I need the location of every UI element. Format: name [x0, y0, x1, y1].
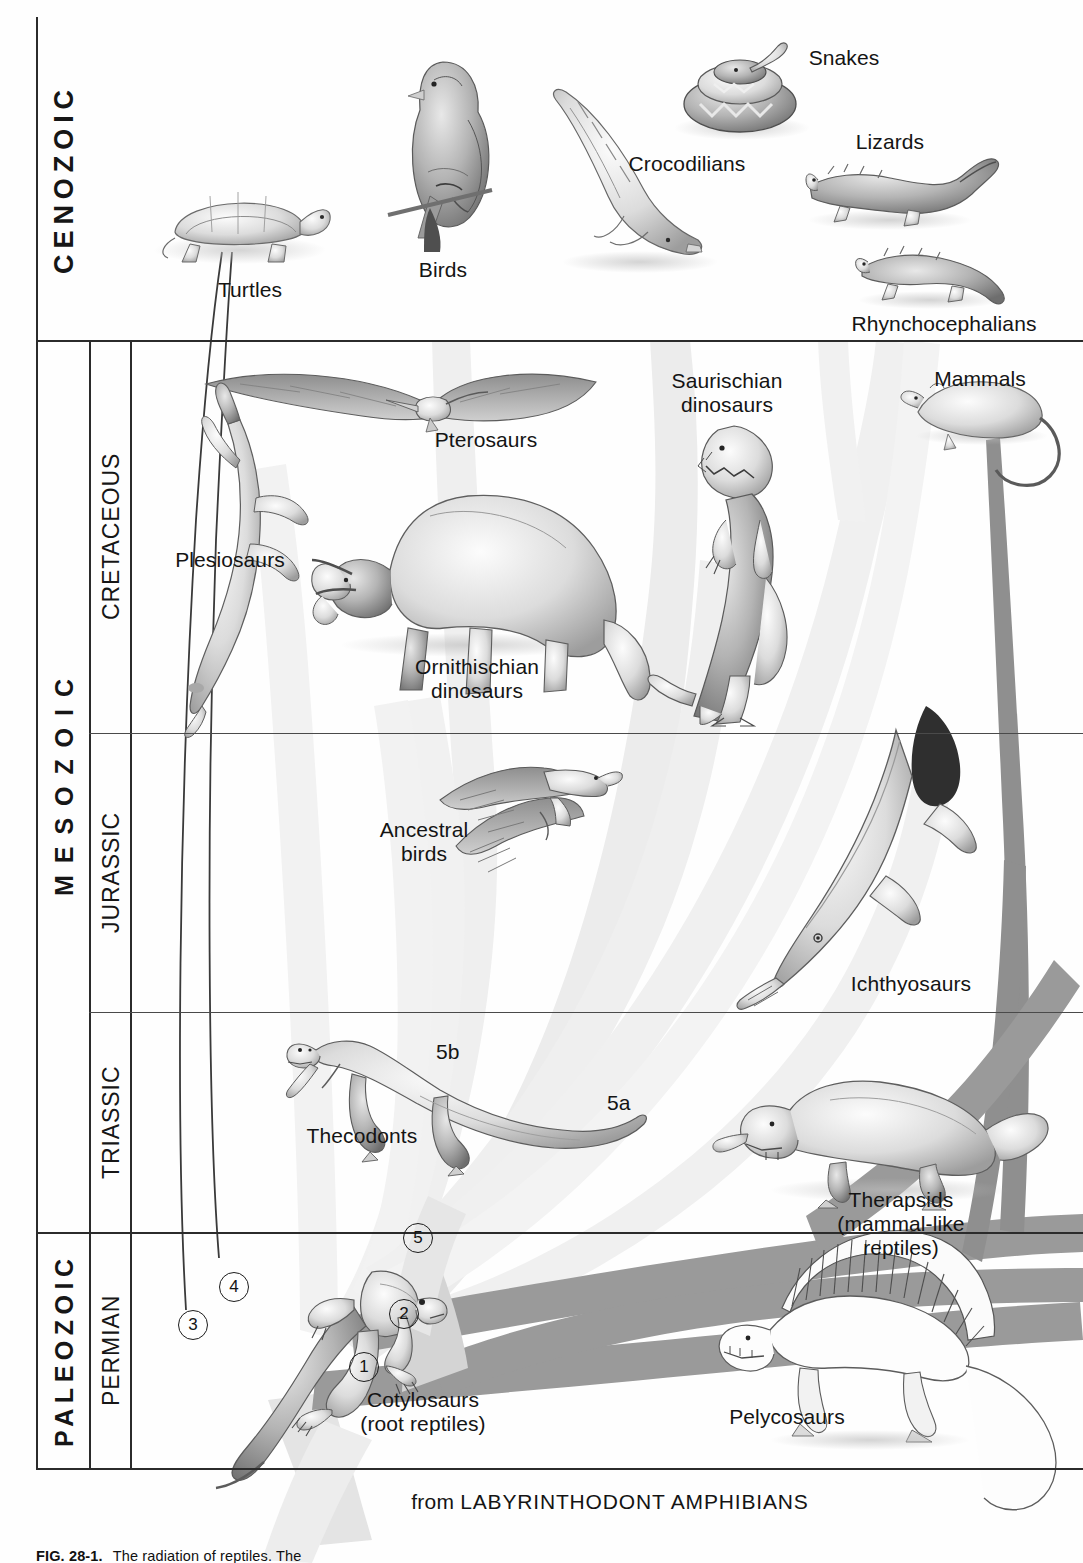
boundary-base-permian	[36, 1468, 1083, 1470]
turtle-illustration	[154, 192, 330, 264]
taxon-label-snakes: Snakes	[809, 46, 880, 70]
era-label-mesozoic: M E S O Z O I C	[40, 340, 88, 1232]
taxon-label-pelycosaurs: Pelycosaurs	[729, 1405, 845, 1429]
illustrations	[0, 0, 1083, 1563]
boundary-jurassic-triassic	[89, 1012, 1083, 1013]
ichthyosaur-illustration	[737, 706, 976, 1009]
period-label-permian: PERMIAN	[92, 1232, 130, 1468]
origin-prefix: from	[411, 1490, 460, 1513]
band-5-lower	[432, 1268, 1083, 1396]
marker-5a: 5a	[607, 1091, 630, 1115]
snake-illustration	[674, 43, 810, 140]
period-label-cretaceous: CRETACEOUS	[92, 340, 130, 733]
taxon-label-plesiosaurs: Plesiosaurs	[175, 548, 285, 572]
taxon-label-ancestral-birds: Ancestral birds	[380, 818, 468, 866]
axis-outer-left-rule	[36, 17, 38, 1468]
origin-label: LABYRINTHODONT AMPHIBIANS	[460, 1490, 809, 1513]
taxon-label-therapsids: Therapsids (mammal-like reptiles)	[810, 1188, 992, 1260]
figure-caption-number: FIG. 28-1.	[36, 1548, 103, 1563]
pterosaur-illustration	[206, 374, 596, 432]
taxon-label-ornithischian: Ornithischian dinosaurs	[415, 655, 539, 703]
figure-caption-text: The radiation of reptiles. The	[113, 1548, 302, 1563]
taxon-label-birds: Birds	[419, 258, 467, 282]
crocodilian-illustration	[554, 90, 718, 273]
era-label-paleozoic: PALEOZOIC	[40, 1232, 88, 1468]
bird-illustration	[388, 62, 492, 252]
period-label-triassic: TRIASSIC	[92, 1012, 130, 1232]
mammal-illustration	[901, 382, 1059, 486]
taxon-label-pterosaurs: Pterosaurs	[435, 428, 538, 452]
band-turtle-3	[180, 252, 222, 1310]
lineage-bands	[0, 0, 1083, 1563]
marker-4: 4	[219, 1272, 249, 1302]
taxon-label-ichthyosaurs: Ichthyosaurs	[851, 972, 971, 996]
era-label-cenozoic: CENOZOIC	[40, 17, 88, 340]
taxon-label-crocodilians: Crocodilians	[629, 152, 746, 176]
figure-canvas: CENOZOIC M E S O Z O I C PALEOZOIC CRETA…	[0, 0, 1083, 1563]
rhynchocephalian-illustration	[856, 246, 1004, 309]
marker-1: 1	[349, 1352, 379, 1382]
marker-2: 2	[389, 1299, 419, 1329]
taxon-label-lizards: Lizards	[856, 130, 924, 154]
band-turtle-4	[210, 252, 232, 1258]
band-base-fan	[262, 1420, 372, 1563]
saurischian-illustration	[648, 426, 787, 726]
thecodont-illustration	[286, 1041, 646, 1176]
lizard-illustration	[806, 159, 999, 230]
taxon-label-mammals: Mammals	[934, 367, 1026, 391]
band-mammals	[986, 438, 1029, 1234]
taxon-label-turtles: Turtles	[218, 278, 282, 302]
taxon-label-rhynchocephalians: Rhynchocephalians	[851, 312, 1036, 336]
taxon-label-saurischian: Saurischian dinosaurs	[672, 369, 783, 417]
boundary-cenozoic-cretaceous	[36, 340, 1083, 342]
axis-chart-left-rule	[130, 340, 132, 1468]
marker-5: 5	[403, 1223, 433, 1253]
taxon-label-cotylosaurs: Cotylosaurs (root reptiles)	[360, 1388, 485, 1436]
marker-3: 3	[178, 1310, 208, 1340]
period-label-jurassic: JURASSIC	[92, 733, 130, 1012]
taxon-label-thecodonts: Thecodonts	[307, 1124, 418, 1148]
band-snakes	[818, 340, 866, 522]
band-ichthyosaurs	[392, 786, 950, 1348]
band-plesiosaurs	[250, 464, 338, 1340]
origin-caption: from LABYRINTHODONT AMPHIBIANS	[411, 1490, 808, 1514]
axis-inner-left-rule	[89, 340, 91, 1468]
marker-5b: 5b	[436, 1040, 459, 1064]
figure-caption: FIG. 28-1.The radiation of reptiles. The	[36, 1548, 301, 1563]
boundary-cretaceous-jurassic	[89, 733, 1083, 734]
band-ornithischian	[352, 700, 433, 1312]
